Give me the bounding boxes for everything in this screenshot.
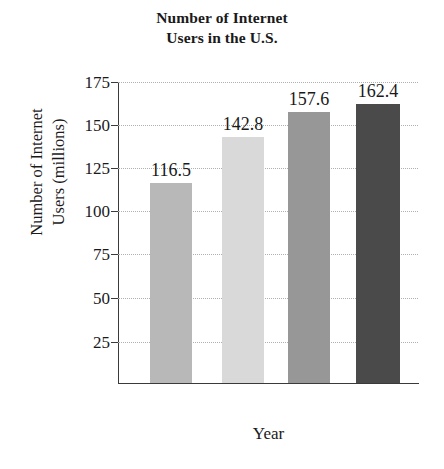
y-tick-mark-175 <box>111 82 118 83</box>
bar-value-2003: 162.4 <box>332 82 424 100</box>
y-tick-label-100: 100 <box>62 203 110 220</box>
y-tick-mark-75 <box>111 254 118 255</box>
bar-2003[interactable] <box>356 104 400 383</box>
y-tick-label-75: 75 <box>62 246 110 263</box>
bar-value-2000: 116.5 <box>125 161 217 179</box>
y-tick-label-175: 175 <box>62 74 110 91</box>
y-axis-tick-labels: 175 150 125 100 75 50 25 <box>58 0 110 469</box>
y-tick-label-50: 50 <box>62 290 110 307</box>
bar-2001[interactable] <box>222 137 264 383</box>
y-tick-mark-100 <box>111 211 118 212</box>
plot-area: 116.5 142.8 157.6 162.4 2000 2001 2002 2… <box>118 82 418 383</box>
x-axis-line <box>118 383 419 384</box>
y-tick-label-150: 150 <box>62 117 110 134</box>
y-tick-mark-125 <box>111 168 118 169</box>
x-axis-title: Year <box>118 424 419 444</box>
y-tick-mark-25 <box>111 342 118 343</box>
y-axis-title-line-1: Number of Internet <box>26 47 48 297</box>
y-tick-label-25: 25 <box>62 334 110 351</box>
y-tick-mark-150 <box>111 125 118 126</box>
bar-2002[interactable] <box>288 112 330 383</box>
bar-value-2001: 142.8 <box>197 115 289 133</box>
y-tick-label-125: 125 <box>62 160 110 177</box>
bar-2000[interactable] <box>150 183 192 383</box>
y-tick-mark-50 <box>111 298 118 299</box>
